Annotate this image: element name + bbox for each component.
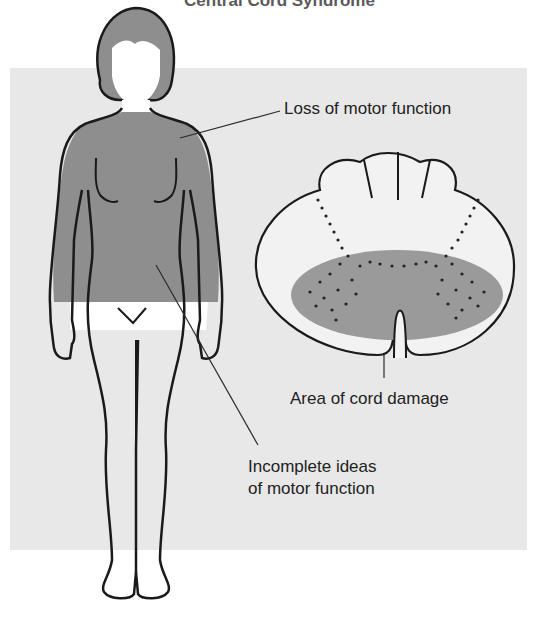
label-incomplete-line2: of motor function [248,478,375,499]
label-incomplete-line1: Incomplete ideas [248,456,377,477]
illustration [0,0,559,621]
spinal-cord-cross-section [256,152,514,358]
label-area-of-cord-damage: Area of cord damage [290,388,449,409]
body-figure [50,8,222,598]
leader-loss-motor [180,111,280,138]
label-loss-of-motor-function: Loss of motor function [284,98,451,119]
